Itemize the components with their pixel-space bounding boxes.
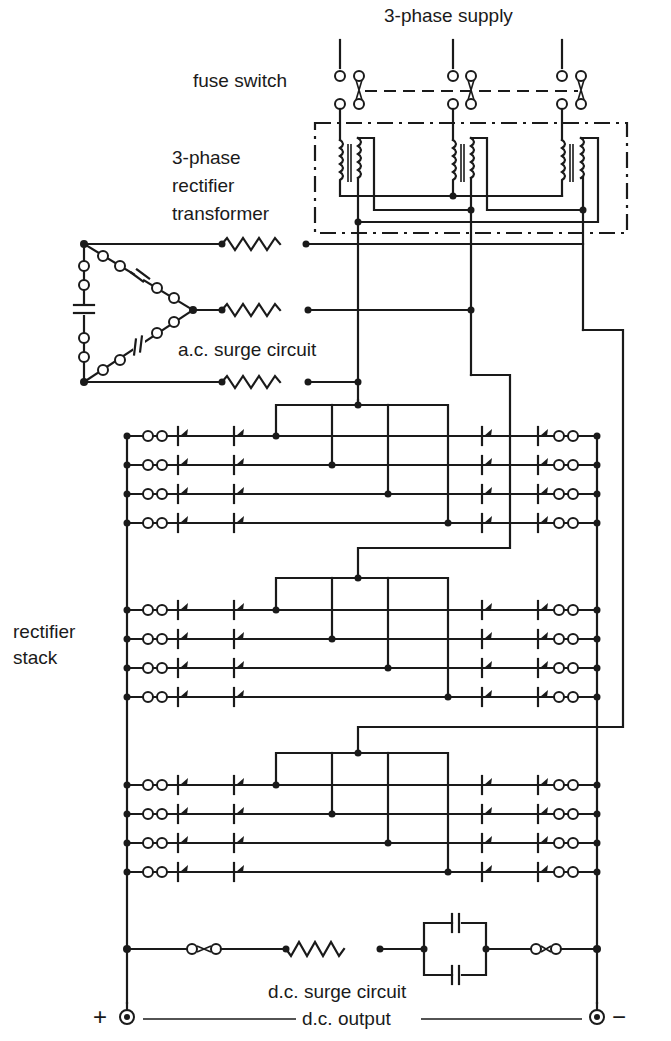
dc-output-label: d.c. output	[302, 1007, 391, 1031]
rectifier-groups	[124, 402, 601, 882]
transformer-windings	[340, 109, 598, 400]
transformer-label-line3: transformer	[172, 202, 269, 226]
stack-label-line2: stack	[13, 646, 57, 670]
fuse-switch-group	[335, 71, 586, 109]
dc-surge-circuit	[123, 914, 601, 984]
ac-surge-circuit	[74, 238, 583, 388]
rectifier-stack	[127, 330, 623, 1003]
dc-surge-label: d.c. surge circuit	[268, 980, 406, 1004]
transformer-label-line2: rectifier	[172, 174, 234, 198]
fuse-switch-label: fuse switch	[193, 69, 287, 93]
stack-label-line1: rectifier	[13, 620, 75, 644]
negative-terminal-label: −	[612, 1005, 626, 1029]
supply-lines	[340, 40, 562, 68]
positive-terminal-label: +	[93, 1005, 107, 1029]
supply-label: 3-phase supply	[384, 4, 513, 28]
rectifier-circuit-diagram	[0, 0, 671, 1041]
transformer-label-line1: 3-phase	[172, 146, 241, 170]
ac-surge-label: a.c. surge circuit	[178, 338, 316, 362]
